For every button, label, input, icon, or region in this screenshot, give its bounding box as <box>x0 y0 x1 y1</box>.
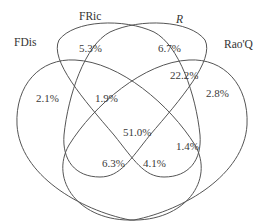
venn-diagram: FDis FRic R Rao'Q 2.1% 5.3% 6.7% 2.8% 1.… <box>0 0 264 224</box>
region-all-four: 51.0% <box>123 127 151 138</box>
region-raoq-only: 2.8% <box>206 88 229 99</box>
region-fric-raoq: 1.4% <box>176 141 199 152</box>
venn-ellipses <box>0 0 264 224</box>
set-label-raoq: Rao'Q <box>224 39 253 51</box>
set-label-r: R <box>176 14 183 26</box>
region-r-only: 6.7% <box>158 43 181 54</box>
region-fric-r-raoq: 4.1% <box>143 158 166 169</box>
set-label-fric: FRic <box>79 11 101 23</box>
set-label-fdis: FDis <box>14 37 36 49</box>
fdis-ellipse <box>17 60 201 220</box>
region-fdis-fric: 1.9% <box>95 93 118 104</box>
region-r-raoq: 22.2% <box>170 70 198 81</box>
region-fric-only: 5.3% <box>79 43 102 54</box>
region-fdis-fric-r: 6.3% <box>102 158 125 169</box>
raoq-ellipse <box>63 60 247 220</box>
region-fdis-only: 2.1% <box>36 93 59 104</box>
